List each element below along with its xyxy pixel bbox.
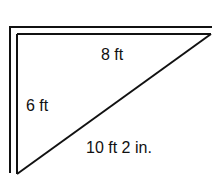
hypotenuse-label: 10 ft 2 in. — [86, 139, 152, 156]
top-side-label: 8 ft — [101, 46, 124, 63]
triangle-corner-diagram: 8 ft 6 ft 10 ft 2 in. — [0, 0, 221, 179]
left-side-label: 6 ft — [26, 97, 49, 114]
